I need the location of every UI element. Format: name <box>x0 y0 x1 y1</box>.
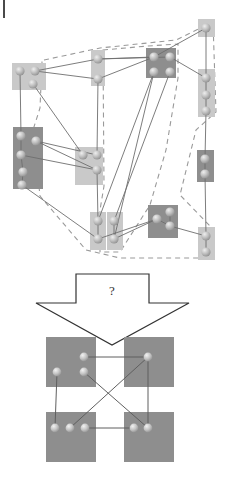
graph-node <box>15 66 24 75</box>
graph-node <box>201 247 210 256</box>
result-node <box>51 424 60 433</box>
result-node <box>53 368 62 377</box>
edge <box>22 185 98 239</box>
result-block-b-tr <box>124 337 174 387</box>
figure-canvas: ? <box>0 0 225 489</box>
output-cluster-blocks <box>46 337 174 462</box>
result-node <box>130 424 139 433</box>
graph-node <box>93 234 102 243</box>
graph-node <box>165 52 174 61</box>
graph-node <box>165 67 174 76</box>
graph-node <box>30 66 39 75</box>
figure-container: ? <box>0 0 225 489</box>
graph-node <box>93 74 102 83</box>
graph-node <box>201 231 210 240</box>
result-block-b-tl <box>46 337 96 387</box>
graph-node <box>149 67 158 76</box>
graph-node <box>28 79 37 88</box>
community-boundaries <box>33 22 216 258</box>
page-corner-mark <box>3 0 5 18</box>
graph-node <box>109 234 118 243</box>
community-boundary-1 <box>33 22 216 258</box>
edge <box>98 57 154 79</box>
result-node <box>144 424 153 433</box>
graph-node <box>200 154 209 163</box>
graph-node <box>201 73 210 82</box>
graph-node <box>16 150 25 159</box>
graph-node <box>201 90 210 99</box>
graph-node <box>92 165 101 174</box>
graph-node <box>78 150 87 159</box>
graph-node <box>31 136 40 145</box>
graph-node <box>93 216 102 225</box>
graph-node <box>16 131 25 140</box>
edge <box>98 72 154 221</box>
graph-node <box>165 207 174 216</box>
result-node <box>80 353 89 362</box>
graph-node <box>92 150 101 159</box>
graph-node <box>149 52 158 61</box>
result-node <box>144 353 153 362</box>
graph-node <box>18 167 27 176</box>
edge <box>205 174 206 236</box>
graph-node <box>200 169 209 178</box>
graph-node <box>109 216 118 225</box>
graph-node <box>201 23 210 32</box>
result-node <box>80 368 89 377</box>
graph-node <box>152 214 161 223</box>
result-block-b-br <box>124 412 174 462</box>
graph-node <box>93 54 102 63</box>
edge <box>97 79 98 155</box>
transition-arrow: ? <box>36 274 189 345</box>
edge <box>114 72 170 221</box>
arrow-question-label: ? <box>109 283 115 298</box>
edge <box>154 28 206 57</box>
result-block-b-bl <box>46 412 96 462</box>
result-node <box>66 424 75 433</box>
graph-node <box>17 180 26 189</box>
result-node <box>81 424 90 433</box>
graph-node <box>165 221 174 230</box>
graph-node <box>201 106 210 115</box>
